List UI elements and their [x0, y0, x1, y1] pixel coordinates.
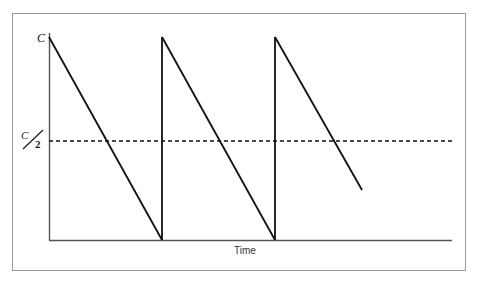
ramp-segment-2: [162, 37, 275, 240]
sawtooth-figure: C C 2 Time: [0, 0, 478, 283]
ramp-segment-3: [275, 37, 362, 190]
y-axis-peak-label: C: [37, 32, 45, 44]
fraction-slash-icon: [22, 129, 46, 151]
ramp-segment-1: [49, 37, 162, 240]
x-axis-label: Time: [234, 246, 256, 256]
sawtooth-waveform: [49, 37, 362, 240]
y-axis-half-label: C 2: [21, 130, 47, 152]
plot-canvas: [0, 0, 478, 283]
half-label-denominator: 2: [35, 139, 41, 150]
figure-border: [13, 14, 466, 271]
